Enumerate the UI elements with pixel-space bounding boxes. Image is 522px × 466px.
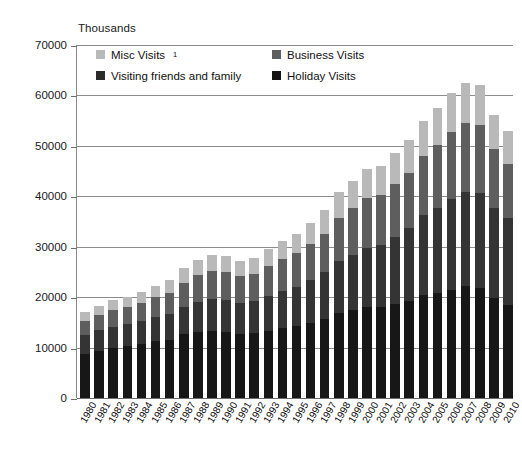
bar-segment [94, 330, 104, 350]
bar-segment [306, 244, 316, 280]
bar-1993[interactable] [264, 249, 274, 398]
bar-segment [179, 283, 189, 307]
bar-1982[interactable] [108, 300, 118, 398]
bar-segment [221, 256, 231, 273]
bar-1990[interactable] [221, 256, 231, 398]
bar-1992[interactable] [249, 258, 259, 398]
y-tick-label-60000: 60000 [35, 89, 67, 101]
bar-segment [108, 300, 118, 310]
bar-segment [207, 255, 217, 272]
bar-1988[interactable] [193, 260, 203, 398]
bar-2007[interactable] [461, 83, 471, 398]
legend-item[interactable]: Business Visits [272, 49, 364, 61]
bar-segment [433, 208, 443, 293]
bar-segment [264, 331, 274, 398]
bar-segment [348, 310, 358, 398]
bar-segment [489, 149, 499, 207]
bar-1985[interactable] [151, 286, 161, 398]
bar-1981[interactable] [94, 306, 104, 398]
bar-segment [320, 319, 330, 398]
bar-segment [334, 313, 344, 398]
chart-legend: Misc Visits1Business VisitsVisiting frie… [96, 44, 364, 86]
bar-segment [193, 332, 203, 398]
bar-segment [320, 272, 330, 319]
legend-swatch-icon [272, 50, 281, 59]
bar-segment [348, 181, 358, 208]
bar-1991[interactable] [235, 261, 245, 398]
legend-label: Business Visits [287, 49, 364, 61]
bar-segment [249, 301, 259, 333]
bar-segment [151, 297, 161, 317]
bar-segment [433, 293, 443, 398]
bar-2004[interactable] [419, 121, 429, 398]
bar-2005[interactable] [433, 108, 443, 398]
bar-segment [376, 195, 386, 245]
bar-1983[interactable] [123, 297, 133, 398]
bar-segment [489, 115, 499, 150]
bar-segment [433, 108, 443, 145]
bar-segment [80, 335, 90, 354]
bar-segment [278, 241, 288, 260]
bar-segment [419, 215, 429, 294]
bar-segment [292, 287, 302, 326]
bar-segment [503, 218, 513, 305]
bar-segment [179, 334, 189, 398]
bar-2008[interactable] [475, 85, 485, 398]
bar-1984[interactable] [137, 292, 147, 398]
bar-segment [193, 260, 203, 276]
legend-item[interactable]: Holiday Visits [272, 70, 364, 82]
bar-segment [306, 280, 316, 323]
bar-segment [503, 305, 513, 398]
bar-segment [461, 83, 471, 123]
bar-2002[interactable] [390, 153, 400, 398]
bar-segment [108, 348, 118, 398]
bar-1989[interactable] [207, 255, 217, 398]
bar-segment [503, 164, 513, 218]
bar-1994[interactable] [278, 241, 288, 398]
bar-2009[interactable] [489, 115, 499, 398]
bar-segment [447, 290, 457, 398]
legend-item[interactable]: Visiting friends and family [96, 70, 264, 82]
bar-1999[interactable] [348, 181, 358, 398]
bar-1998[interactable] [334, 192, 344, 398]
bar-segment [334, 192, 344, 218]
bar-1987[interactable] [179, 268, 189, 398]
bar-2006[interactable] [447, 93, 457, 398]
bar-segment [165, 314, 175, 339]
bar-segment [475, 288, 485, 398]
bars-layer [77, 45, 513, 398]
bar-segment [306, 223, 316, 244]
bar-segment [362, 198, 372, 248]
bar-segment [404, 173, 414, 228]
bar-segment [390, 304, 400, 398]
bar-segment [278, 328, 288, 398]
bar-segment [475, 193, 485, 288]
bar-segment [151, 317, 161, 341]
bar-segment [137, 303, 147, 322]
bar-1997[interactable] [320, 210, 330, 398]
bar-1980[interactable] [80, 312, 90, 398]
stacked-bar-chart: Thousands 010000200003000040000500006000… [0, 0, 522, 466]
legend-item[interactable]: Misc Visits1 [96, 49, 264, 61]
bar-1996[interactable] [306, 223, 316, 398]
bar-segment [292, 234, 302, 254]
bar-segment [123, 307, 133, 325]
bar-segment [179, 268, 189, 282]
bar-segment [108, 327, 118, 348]
bar-2000[interactable] [362, 169, 372, 398]
legend-footnote-marker: 1 [173, 50, 177, 59]
bar-segment [80, 312, 90, 321]
bar-1995[interactable] [292, 234, 302, 398]
bar-segment [123, 297, 133, 307]
bar-segment [419, 295, 429, 398]
bar-segment [108, 310, 118, 327]
bar-segment [235, 261, 245, 277]
bar-1986[interactable] [165, 280, 175, 398]
bar-segment [80, 321, 90, 336]
bar-segment [475, 125, 485, 193]
bar-segment [334, 261, 344, 313]
bar-2001[interactable] [376, 166, 386, 398]
bar-2003[interactable] [404, 140, 414, 398]
bar-2010[interactable] [503, 131, 513, 398]
bar-segment [390, 153, 400, 184]
